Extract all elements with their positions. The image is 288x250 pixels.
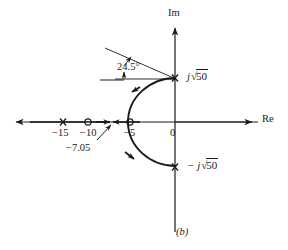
point-prefix-lower: − j: [187, 159, 200, 171]
locus-arrow-lower: [125, 152, 134, 159]
breakaway-label: −7.05: [66, 143, 90, 154]
origin-label: 0: [170, 128, 175, 139]
root-locus-plot: [0, 0, 288, 250]
root-locus-figure: Im Re 0 −15 −10 −5 −7.05 24.5° j√50 − j√…: [0, 0, 288, 250]
radical-arg-lower: 50: [206, 158, 218, 171]
axis-label-imaginary: Im: [168, 8, 180, 19]
tick-label-minus15: −15: [52, 128, 68, 139]
angle-label: 24.5°: [117, 62, 140, 73]
radical-upper: √50: [190, 71, 208, 82]
locus-arrow-upper: [132, 87, 140, 92]
figure-caption: (b): [176, 227, 188, 238]
tick-label-minus10: −10: [80, 128, 96, 139]
point-label-upper-imaginary: j√50: [187, 71, 208, 82]
radical-lower: √50: [200, 160, 218, 171]
tick-label-minus5: −5: [124, 128, 135, 139]
breakaway-pointer: [97, 125, 111, 140]
radical-arg-upper: 50: [196, 69, 208, 82]
axis-label-real: Re: [262, 114, 274, 125]
point-label-lower-imaginary: − j√50: [187, 160, 218, 171]
